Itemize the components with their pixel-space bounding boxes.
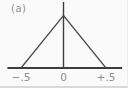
triangle-function-figure: (a) −.5 0 +.5: [0, 0, 128, 88]
x-tick-label-pos-half: +.5: [97, 70, 116, 84]
x-tick-label-zero: 0: [60, 70, 67, 84]
x-tick-label-neg-half: −.5: [12, 70, 31, 84]
